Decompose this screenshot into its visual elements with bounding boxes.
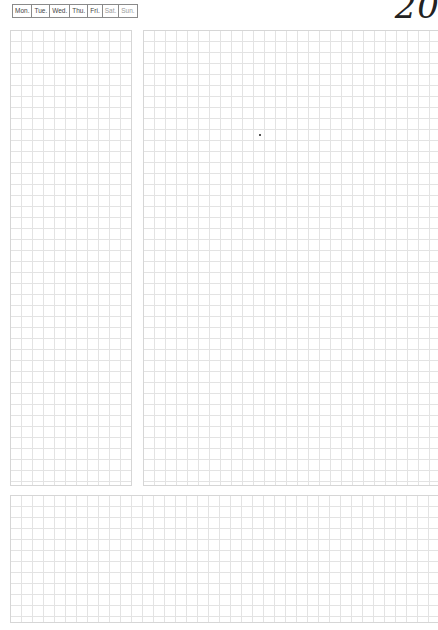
grid-panel-left[interactable] <box>10 30 132 486</box>
weekday-tue[interactable]: Tue. <box>32 5 50 17</box>
weekday-wed[interactable]: Wed. <box>50 5 70 17</box>
weekday-mon[interactable]: Mon. <box>13 5 32 17</box>
grid-panel-bottom[interactable] <box>10 495 438 623</box>
grid-panel-right[interactable] <box>143 30 438 486</box>
weekday-fri[interactable]: Fri. <box>88 5 102 17</box>
date-number: 20 <box>395 0 438 26</box>
weekday-sat[interactable]: Sat. <box>103 5 120 17</box>
weekday-thu[interactable]: Thu. <box>70 5 88 17</box>
ink-dot <box>259 134 261 136</box>
weekday-selector: Mon. Tue. Wed. Thu. Fri. Sat. Sun. <box>12 4 138 18</box>
weekday-sun[interactable]: Sun. <box>119 5 136 17</box>
